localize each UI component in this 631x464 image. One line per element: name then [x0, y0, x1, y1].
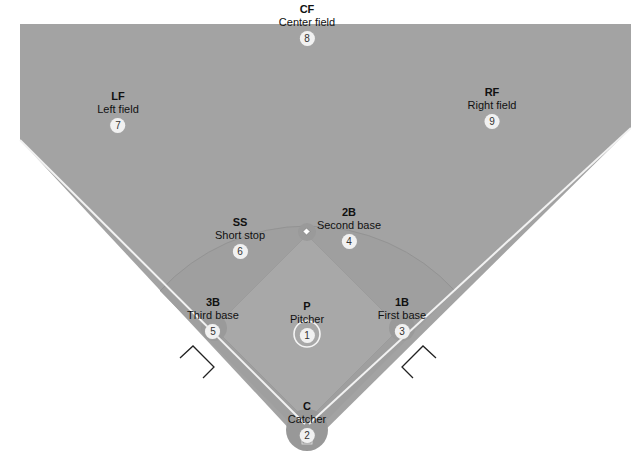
position-abbr: CF [279, 3, 335, 16]
position-name: Pitcher [290, 313, 324, 326]
position-abbr: 1B [378, 296, 426, 309]
position-abbr: 2B [317, 206, 381, 219]
position-number-badge: 1 [300, 328, 315, 343]
baseball-field [0, 0, 631, 464]
position-left-field: LF Left field 7 [97, 90, 139, 134]
position-abbr: LF [97, 90, 139, 103]
position-name: Right field [468, 99, 517, 112]
position-number-badge: 9 [484, 114, 499, 129]
position-name: Second base [317, 219, 381, 232]
position-short-stop: SS Short stop 6 [215, 216, 265, 260]
position-name: Third base [187, 309, 239, 322]
position-center-field: CF Center field 8 [279, 3, 335, 47]
third-base-dugout-icon [180, 346, 214, 378]
position-number-badge: 2 [300, 428, 315, 443]
position-catcher: C Catcher 2 [288, 400, 327, 444]
position-abbr: P [290, 300, 324, 313]
position-abbr: 3B [187, 296, 239, 309]
position-right-field: RF Right field 9 [468, 86, 517, 130]
position-name: Center field [279, 16, 335, 29]
position-name: Short stop [215, 229, 265, 242]
position-number-badge: 5 [205, 324, 220, 339]
position-abbr: RF [468, 86, 517, 99]
position-pitcher: P Pitcher 1 [290, 300, 324, 344]
position-third-base: 3B Third base 5 [187, 296, 239, 340]
first-base-dugout-icon [402, 346, 436, 378]
position-number-badge: 3 [394, 324, 409, 339]
position-abbr: C [288, 400, 327, 413]
position-number-badge: 6 [232, 244, 247, 259]
position-number-badge: 8 [299, 31, 314, 46]
position-abbr: SS [215, 216, 265, 229]
position-first-base: 1B First base 3 [378, 296, 426, 340]
position-second-base: 2B Second base 4 [317, 206, 381, 250]
position-number-badge: 4 [342, 234, 357, 249]
position-name: First base [378, 309, 426, 322]
position-name: Catcher [288, 413, 327, 426]
position-name: Left field [97, 103, 139, 116]
position-number-badge: 7 [111, 118, 126, 133]
